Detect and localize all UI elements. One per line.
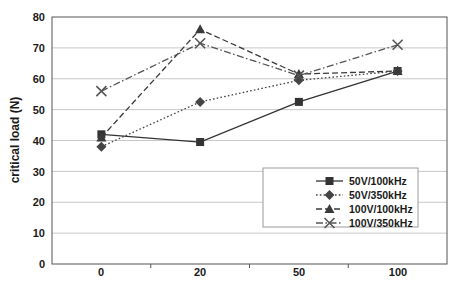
y-tick-label-50: 50 (33, 104, 45, 116)
legend-label-1: 50V/350kHz (349, 189, 407, 201)
y-tick-label-30: 30 (33, 166, 45, 178)
x-tick-label-50: 50 (293, 266, 305, 278)
chart-container: 80 70 60 50 40 30 20 10 0 0 20 50 100 cr… (0, 0, 459, 293)
y-tick-label-0: 0 (39, 258, 45, 270)
chart-background (0, 0, 459, 293)
y-tick-label-60: 60 (33, 73, 45, 85)
y-tick-label-80: 80 (33, 11, 45, 23)
y-axis-title: critical load (N) (8, 97, 22, 184)
x-tick-label-20: 20 (194, 266, 206, 278)
y-tick-label-70: 70 (33, 42, 45, 54)
x-tick-label-0: 0 (98, 266, 104, 278)
data-point-0-2 (295, 98, 303, 106)
y-tick-label-10: 10 (33, 227, 45, 239)
data-point-0-1 (196, 138, 204, 146)
legend-item-1[interactable]: 50V/350kHz (316, 189, 407, 201)
marker-square (326, 177, 334, 185)
legend-marker-0 (326, 177, 334, 185)
legend-label-0: 50V/100kHz (349, 175, 407, 187)
line-chart: 80 70 60 50 40 30 20 10 0 0 20 50 100 cr… (0, 0, 459, 293)
marker-square (196, 138, 204, 146)
x-tick-label-100: 100 (389, 266, 407, 278)
legend-label-3: 100V/350kHz (349, 217, 413, 229)
y-axis-tick-label-group: 80 70 60 50 40 30 20 10 0 (33, 11, 45, 270)
marker-square (295, 98, 303, 106)
legend: 50V/100kHz50V/350kHz100V/100kHz100V/350k… (263, 168, 418, 229)
y-tick-label-40: 40 (33, 135, 45, 147)
legend-label-2: 100V/100kHz (349, 203, 413, 215)
y-tick-label-20: 20 (33, 196, 45, 208)
